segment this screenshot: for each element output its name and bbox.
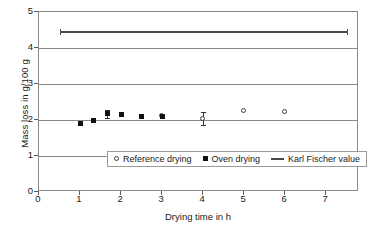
error-bar-cap <box>201 125 206 126</box>
y-tick-label-4: 4 <box>3 42 33 52</box>
x-tick-label-1: 1 <box>67 194 91 204</box>
x-tick-label-7: 7 <box>313 194 337 204</box>
gridline-y-2 <box>39 120 357 121</box>
y-tick-label-1: 1 <box>3 150 33 160</box>
x-tick-mark-6 <box>284 191 285 195</box>
y-tick-label-3: 3 <box>3 78 33 88</box>
legend-entry-2: Oven drying <box>203 154 261 164</box>
legend-entry-3: Karl Fischer value <box>271 154 360 164</box>
data-point <box>78 121 83 126</box>
karl-fischer-line-cap-start <box>60 29 61 35</box>
x-tick-mark-2 <box>120 191 121 195</box>
legend-label: Karl Fischer value <box>288 154 360 164</box>
karl-fischer-line-cap-end <box>347 29 348 35</box>
legend-label: Oven drying <box>212 154 261 164</box>
horizontal-line-icon <box>271 158 284 160</box>
karl-fischer-line <box>60 31 347 33</box>
error-bar-cap <box>201 112 206 113</box>
error-bar-cap <box>105 118 110 119</box>
data-point <box>241 108 246 113</box>
x-tick-label-6: 6 <box>272 194 296 204</box>
data-point <box>200 116 205 121</box>
chart-figure: Mass loss in g/100 g Drying time in h 01… <box>0 0 369 230</box>
y-tick-label-2: 2 <box>3 114 33 124</box>
x-tick-mark-0 <box>38 191 39 195</box>
data-point <box>91 118 96 123</box>
filled-square-icon <box>203 156 208 161</box>
data-point <box>282 109 287 114</box>
x-tick-label-2: 2 <box>108 194 132 204</box>
x-tick-label-0: 0 <box>26 194 50 204</box>
x-tick-label-3: 3 <box>149 194 173 204</box>
x-tick-mark-4 <box>202 191 203 195</box>
gridline-y-4 <box>39 48 357 49</box>
x-tick-label-4: 4 <box>190 194 214 204</box>
data-point <box>160 114 165 119</box>
x-tick-mark-7 <box>325 191 326 195</box>
x-tick-mark-3 <box>161 191 162 195</box>
y-tick-label-5: 5 <box>3 6 33 16</box>
x-tick-label-5: 5 <box>231 194 255 204</box>
plot-area: Reference dryingOven dryingKarl Fischer … <box>38 11 358 191</box>
legend-label: Reference drying <box>123 154 192 164</box>
data-point <box>119 112 124 117</box>
x-tick-mark-5 <box>243 191 244 195</box>
data-point <box>105 111 110 116</box>
open-circle-icon <box>114 156 119 161</box>
x-tick-mark-1 <box>79 191 80 195</box>
legend-entry-1: Reference drying <box>114 154 192 164</box>
x-axis-title: Drying time in h <box>34 211 362 222</box>
chart-legend: Reference dryingOven dryingKarl Fischer … <box>107 151 367 167</box>
gridline-y-3 <box>39 84 357 85</box>
data-point <box>139 114 144 119</box>
